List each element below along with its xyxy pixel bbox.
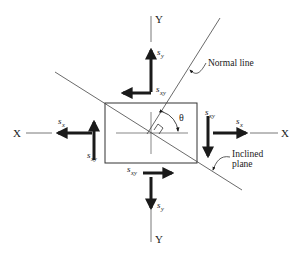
theta-arc [163,112,178,131]
sy-bottom-sub: y [160,205,164,212]
normal-line-label: Normal line [208,58,254,68]
inclined-plane-label-line2: plane [232,159,253,169]
sxy-left-sub: xy [90,155,97,162]
sx-right-sub: x [239,121,243,128]
sxy-right-sub: xy [208,112,215,119]
x-axis-label-right: X [281,127,289,139]
x-axis-label-left: X [13,127,21,139]
sxy-top-sub: xy [159,89,166,96]
y-axis-label-top: Y [155,13,163,25]
right-angle-marker [154,124,163,134]
sx-left-sub: x [61,121,65,128]
sxy-bottom-sub: xy [130,169,137,176]
stress-element-diagram: Y Y X X θ s y s xy s x s xy s xy s x s x… [0,0,302,258]
inclined-plane-leader [213,157,230,170]
sy-top-sub: y [160,52,164,59]
y-axis-label-bottom: Y [155,233,163,245]
normal-line-leader [190,63,206,73]
inclined-plane-label-line1: Inclined [232,149,263,159]
theta-label: θ [179,112,184,123]
